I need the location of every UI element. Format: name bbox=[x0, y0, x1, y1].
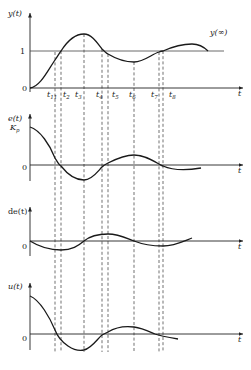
error-panel: e(t) Kp 0 t bbox=[8, 114, 243, 181]
control-output-panel: u(t) 0 t bbox=[8, 282, 243, 350]
setpoint-level-label: 1 bbox=[20, 47, 25, 56]
t-axis-label-4: t bbox=[238, 335, 242, 344]
error-derivative-curve bbox=[30, 234, 192, 250]
control-output-curve bbox=[30, 296, 178, 350]
t-axis-label-3: t bbox=[238, 242, 242, 251]
steady-state-label: y(∞) bbox=[209, 28, 227, 37]
time-marker-lines bbox=[55, 34, 163, 352]
marker-label-t8: t8 bbox=[169, 90, 176, 100]
marker-label-t5: t5 bbox=[112, 90, 119, 100]
marker-label-t7: t7 bbox=[151, 90, 158, 100]
t-axis-label-2: t bbox=[238, 166, 242, 175]
marker-label-t6: t6 bbox=[129, 90, 136, 100]
error-curve bbox=[30, 127, 201, 180]
e-axis-label: e(t) bbox=[8, 114, 22, 123]
pid-response-diagram: y(t) 1 0 y(∞) t t11 t2 t3 t4 t5 t6 t7 t8… bbox=[0, 0, 251, 370]
output-response-panel: y(t) 1 0 y(∞) t t11 t2 t3 t4 t5 t6 t7 t8 bbox=[7, 9, 243, 100]
y-axis-label: y(t) bbox=[7, 9, 22, 18]
t-axis-label: t bbox=[238, 89, 242, 98]
marker-label-t3: t3 bbox=[75, 90, 82, 100]
origin-label: 0 bbox=[22, 84, 27, 93]
de-zero-label: 0 bbox=[22, 242, 27, 251]
error-derivative-panel: de(t) 0 t bbox=[8, 207, 243, 256]
marker-label-t2: t2 bbox=[63, 90, 70, 100]
e-zero-label: 0 bbox=[22, 163, 27, 172]
u-axis-label: u(t) bbox=[8, 282, 23, 291]
u-zero-label: 0 bbox=[22, 334, 27, 343]
output-curve bbox=[30, 34, 208, 88]
kp-label: Kp bbox=[9, 123, 20, 134]
de-axis-label: de(t) bbox=[8, 207, 27, 216]
marker-label-t11: t11 bbox=[47, 90, 57, 100]
